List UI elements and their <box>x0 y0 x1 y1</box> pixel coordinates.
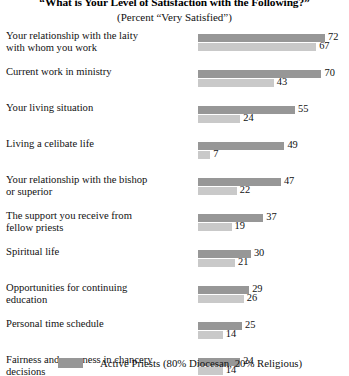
bar-value-label: 37 <box>266 211 276 223</box>
row-bars: 7267 <box>198 34 349 54</box>
chart-title: “What is Your Level of Satisfaction with… <box>0 0 349 8</box>
chart-row: Living a celibate life497 <box>0 138 349 174</box>
row-label: Your relationship with the bishopor supe… <box>6 174 192 199</box>
bar-line: 37 <box>198 214 349 222</box>
bar-value-label: 22 <box>240 184 250 196</box>
row-label-line: with whom you work <box>6 42 192 54</box>
chart-row: Your relationship with the laitywith who… <box>0 30 349 66</box>
row-bars: 497 <box>198 142 349 162</box>
row-label-line: Opportunities for continuing <box>6 282 192 294</box>
bar-line: 25 <box>198 322 349 330</box>
bar-line: 67 <box>198 43 349 51</box>
bar-line: 22 <box>198 187 349 195</box>
row-bars: 2926 <box>198 286 349 306</box>
bar-line: 19 <box>198 223 349 231</box>
row-label: Living a celibate life <box>6 138 192 150</box>
row-label: Personal time schedule <box>6 318 192 330</box>
bar <box>198 259 235 267</box>
chart-subtitle: (Percent “Very Satisfied”) <box>0 10 349 24</box>
bar <box>198 115 240 123</box>
bar-value-label: 26 <box>247 292 257 304</box>
row-label: Spiritual life <box>6 246 192 258</box>
bar-value-label: 21 <box>238 256 248 268</box>
row-label-line: education <box>6 294 192 306</box>
bar-line: 30 <box>198 250 349 258</box>
legend-label: Active Priests (80% Diocesan, 20% Religi… <box>100 357 302 369</box>
chart-row: Spiritual life3021 <box>0 246 349 282</box>
row-bars: 4722 <box>198 178 349 198</box>
bar-line: 14 <box>198 331 349 339</box>
chart-row: Current work in ministry7043 <box>0 66 349 102</box>
bar-value-label: 30 <box>254 247 264 259</box>
bar-value-label: 19 <box>235 220 245 232</box>
chart-header: “What is Your Level of Satisfaction with… <box>0 0 349 24</box>
bar-line: 43 <box>198 79 349 87</box>
row-label-line: Spiritual life <box>6 246 192 258</box>
chart-row: Your relationship with the bishopor supe… <box>0 174 349 210</box>
bar <box>198 223 232 231</box>
bar-value-label: 7 <box>213 148 218 160</box>
row-bars: 5524 <box>198 106 349 126</box>
row-label-line: The support you receive from <box>6 210 192 222</box>
row-bars: 2514 <box>198 322 349 342</box>
bar <box>198 187 237 195</box>
bar-value-label: 43 <box>277 76 287 88</box>
chart-row: Personal time schedule2514 <box>0 318 349 354</box>
row-label: Your living situation <box>6 102 192 114</box>
bar-line: 7 <box>198 151 349 159</box>
row-label: Your relationship with the laitywith who… <box>6 30 192 55</box>
legend-item-active-priests: Active Priests (80% Diocesan, 20% Religi… <box>58 357 302 369</box>
bar-value-label: 25 <box>245 319 255 331</box>
legend-swatch-icon <box>58 358 83 368</box>
bar <box>198 34 325 42</box>
row-bars: 7043 <box>198 70 349 90</box>
row-bars: 3021 <box>198 250 349 270</box>
row-label: Opportunities for continuingeducation <box>6 282 192 307</box>
bar <box>198 214 263 222</box>
bar-line: 70 <box>198 70 349 78</box>
bar-value-label: 49 <box>287 139 297 151</box>
bar <box>198 331 223 339</box>
row-bars: 3719 <box>198 214 349 234</box>
bar-line: 55 <box>198 106 349 114</box>
bar-value-label: 24 <box>243 112 253 124</box>
chart-row: Opportunities for continuingeducation292… <box>0 282 349 318</box>
bar <box>198 142 284 150</box>
bar <box>198 70 321 78</box>
bar-line: 24 <box>198 115 349 123</box>
bar-line: 29 <box>198 286 349 294</box>
row-label-line: Your living situation <box>6 102 192 114</box>
row-label-line: Your relationship with the laity <box>6 30 192 42</box>
bar-line: 47 <box>198 178 349 186</box>
bar <box>198 79 274 87</box>
row-label-line: Personal time schedule <box>6 318 192 330</box>
chart-container: “What is Your Level of Satisfaction with… <box>0 0 349 376</box>
chart-legend: Active Priests (80% Diocesan, 20% Religi… <box>0 357 349 376</box>
bar <box>198 43 316 51</box>
bar-line: 21 <box>198 259 349 267</box>
bar <box>198 151 210 159</box>
chart-rows: Your relationship with the laitywith who… <box>0 30 349 376</box>
bar-value-label: 67 <box>319 40 329 52</box>
bar-value-label: 55 <box>298 103 308 115</box>
row-label: Current work in ministry <box>6 66 192 78</box>
row-label: The support you receive fromfellow pries… <box>6 210 192 235</box>
bar <box>198 286 249 294</box>
row-label-line: Current work in ministry <box>6 66 192 78</box>
row-label-line: fellow priests <box>6 222 192 234</box>
bar-value-label: 47 <box>284 175 294 187</box>
bar-line: 26 <box>198 295 349 303</box>
row-label-line: or superior <box>6 186 192 198</box>
bar-value-label: 14 <box>226 328 236 340</box>
bar-line: 49 <box>198 142 349 150</box>
row-label-line: Your relationship with the bishop <box>6 174 192 186</box>
chart-row: The support you receive fromfellow pries… <box>0 210 349 246</box>
row-label-line: Living a celibate life <box>6 138 192 150</box>
bar <box>198 295 244 303</box>
bar-value-label: 70 <box>324 67 334 79</box>
chart-row: Your living situation5524 <box>0 102 349 138</box>
